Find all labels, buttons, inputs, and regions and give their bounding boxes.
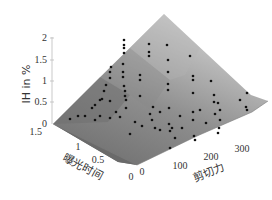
x-tick: 0 [140,166,145,177]
y-tick: 1.5 [30,126,43,137]
y-tick: 0 [129,171,134,182]
z-tick: 1 [42,75,47,86]
x-axis-label: 剪切力 [191,160,227,185]
y-tick: 1 [76,141,81,152]
z-tick: 1.5 [35,54,48,65]
x-tick: 300 [235,143,250,154]
z-axis: 2 1.5 1 0.5 0 IH in % [20,32,54,129]
y-tick: 0.5 [92,154,105,165]
z-tick: 2 [42,32,47,43]
x-tick: 100 [173,160,188,171]
x-tick: 200 [204,151,219,162]
z-tick: 0.5 [35,96,48,107]
surface-chart: 2 1.5 1 0.5 0 IH in % [0,0,272,200]
z-axis-label: IH in % [20,65,33,104]
z-tick: 0 [42,118,47,129]
